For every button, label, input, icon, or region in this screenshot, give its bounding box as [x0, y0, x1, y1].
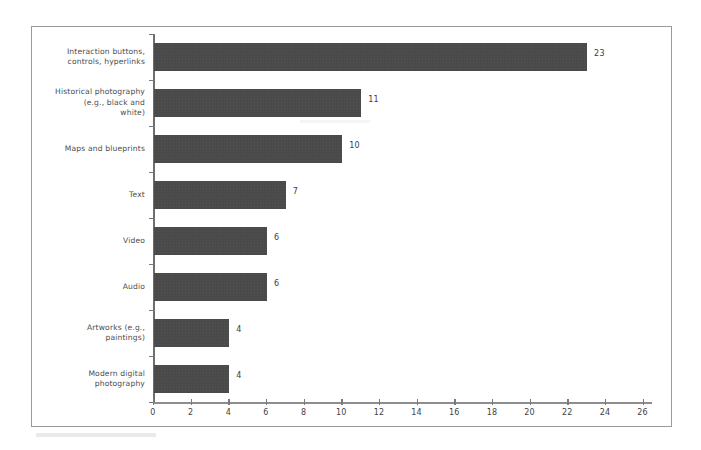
category-label-line: white): [33, 108, 145, 119]
x-axis-tick-label: 20: [524, 408, 535, 417]
category-label-line: Modern digital: [33, 369, 145, 380]
x-axis-tick: [643, 399, 644, 405]
x-axis-tick: [417, 399, 418, 405]
x-axis-tick-label: 2: [188, 408, 193, 417]
y-axis-tick: [149, 126, 154, 127]
y-axis-tick: [149, 172, 154, 173]
x-axis-tick-label: 4: [226, 408, 231, 417]
x-axis-tick-label: 6: [263, 408, 268, 417]
bar-value-label: 23: [594, 49, 605, 58]
x-axis-tick: [454, 399, 455, 405]
bar[interactable]: [154, 227, 267, 255]
x-axis-tick: [304, 399, 305, 405]
category-label: Video: [33, 236, 145, 247]
category-label: Artworks (e.g., paintings): [33, 323, 145, 344]
category-label: Text: [33, 190, 145, 201]
y-axis-tick: [149, 80, 154, 81]
x-axis-tick: [266, 399, 267, 405]
x-axis-tick-label: 22: [562, 408, 573, 417]
figure-frame: Interaction buttons, controls, hyperlink…: [31, 26, 672, 427]
category-label-line: (e.g., black and: [33, 98, 145, 109]
category-label-line: photography: [33, 379, 145, 390]
category-label: Maps and blueprints: [33, 144, 145, 155]
bar[interactable]: [154, 319, 229, 347]
bar-value-label: 7: [293, 187, 298, 196]
bar[interactable]: [154, 135, 342, 163]
y-axis-tick: [149, 218, 154, 219]
x-axis-tick-label: 16: [449, 408, 460, 417]
category-label: Historical photography (e.g., black and …: [33, 87, 145, 119]
bar-value-label: 10: [349, 141, 360, 150]
category-label-line: Audio: [33, 282, 145, 293]
x-axis-tick-label: 14: [411, 408, 422, 417]
y-axis-tick: [149, 356, 154, 357]
x-axis-tick-label: 18: [487, 408, 498, 417]
category-label-line: paintings): [33, 333, 145, 344]
x-axis-tick-label: 10: [336, 408, 347, 417]
x-axis-tick: [228, 399, 229, 405]
category-label-line: Maps and blueprints: [33, 144, 145, 155]
category-label-line: Video: [33, 236, 145, 247]
x-axis-tick: [379, 399, 380, 405]
bar[interactable]: [154, 181, 286, 209]
bar[interactable]: [154, 273, 267, 301]
x-axis-tick: [492, 399, 493, 405]
x-axis-tick-label: 24: [600, 408, 611, 417]
category-label-line: controls, hyperlinks: [33, 57, 145, 68]
bar-value-label: 4: [236, 325, 241, 334]
category-label-line: Historical photography: [33, 87, 145, 98]
bar-value-label: 11: [368, 95, 379, 104]
bar-value-label: 6: [274, 233, 279, 242]
x-axis-tick: [567, 399, 568, 405]
scan-artifact: [36, 433, 156, 437]
bar-value-label: 6: [274, 279, 279, 288]
bar[interactable]: [154, 365, 229, 393]
x-axis-tick: [191, 399, 192, 405]
x-axis-tick-label: 0: [150, 408, 155, 417]
x-axis-tick-label: 26: [637, 408, 648, 417]
x-axis-tick: [153, 399, 154, 405]
x-axis-tick-label: 12: [374, 408, 385, 417]
x-axis-tick: [530, 399, 531, 405]
y-axis-tick: [149, 310, 154, 311]
x-axis-tick-label: 8: [301, 408, 306, 417]
category-label: Audio: [33, 282, 145, 293]
bar-value-label: 4: [236, 371, 241, 380]
y-axis-tick: [149, 264, 154, 265]
bar-chart-plot-area: Interaction buttons, controls, hyperlink…: [153, 34, 653, 405]
category-label-line: Artworks (e.g.,: [33, 323, 145, 334]
y-axis-tick: [149, 34, 154, 35]
x-axis-tick: [605, 399, 606, 405]
bar[interactable]: [154, 43, 587, 71]
category-label-line: Text: [33, 190, 145, 201]
category-label: Modern digital photography: [33, 369, 145, 390]
category-label-line: Interaction buttons,: [33, 47, 145, 58]
category-label: Interaction buttons, controls, hyperlink…: [33, 47, 145, 68]
x-axis-tick: [341, 399, 342, 405]
bar[interactable]: [154, 89, 361, 117]
